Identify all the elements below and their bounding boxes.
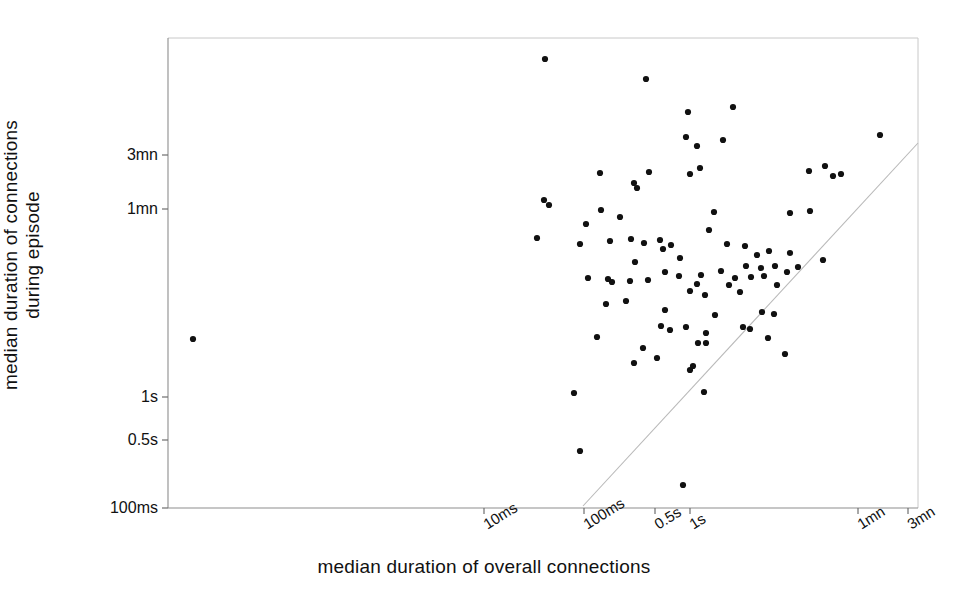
data-point	[617, 214, 623, 220]
data-point	[597, 170, 603, 176]
plot-frame	[168, 38, 918, 508]
data-point	[687, 288, 693, 294]
data-point	[730, 104, 736, 110]
data-point	[772, 263, 778, 269]
data-point	[662, 307, 668, 313]
data-point	[820, 257, 826, 263]
x-axis-title: median duration of overall connections	[0, 556, 968, 578]
y-tick-label: 0.5s	[60, 431, 158, 449]
data-point	[583, 221, 589, 227]
data-point	[687, 367, 693, 373]
data-point	[732, 275, 738, 281]
data-point	[628, 236, 634, 242]
y-tick-label: 100ms	[60, 499, 158, 517]
data-point	[748, 274, 754, 280]
data-point	[697, 165, 703, 171]
data-point	[740, 324, 746, 330]
data-point	[546, 202, 552, 208]
data-point	[680, 482, 686, 488]
data-point	[657, 237, 663, 243]
data-point	[667, 327, 673, 333]
data-point	[603, 301, 609, 307]
data-point	[687, 171, 693, 177]
data-point	[660, 246, 666, 252]
y-axis-title-line-1: median duration of connections	[0, 0, 22, 510]
data-point	[641, 240, 647, 246]
data-point	[594, 334, 600, 340]
data-point	[743, 263, 749, 269]
data-point	[784, 269, 790, 275]
data-point	[534, 235, 540, 241]
data-point	[577, 241, 583, 247]
data-point	[787, 210, 793, 216]
data-point	[623, 298, 629, 304]
data-point	[190, 336, 196, 342]
data-point	[631, 360, 637, 366]
data-point	[754, 252, 760, 258]
data-point	[662, 269, 668, 275]
data-point	[683, 134, 689, 140]
data-point	[822, 163, 828, 169]
data-point	[571, 390, 577, 396]
y-axis-title-line-2: during episode	[22, 0, 44, 510]
y-tick-label: 1s	[60, 388, 158, 406]
data-point	[542, 56, 548, 62]
data-point	[585, 275, 591, 281]
axis-ticks	[162, 155, 908, 514]
data-point	[694, 281, 700, 287]
data-point	[627, 278, 633, 284]
data-point	[703, 340, 709, 346]
data-point	[598, 207, 604, 213]
data-point	[766, 248, 772, 254]
data-point	[683, 324, 689, 330]
data-point	[737, 289, 743, 295]
data-point	[718, 268, 724, 274]
data-point	[724, 241, 730, 247]
data-point	[645, 277, 651, 283]
data-point	[726, 282, 732, 288]
y-tick-label: 1mn	[60, 200, 158, 218]
data-point	[720, 137, 726, 143]
data-point	[774, 282, 780, 288]
data-point	[758, 265, 764, 271]
data-point	[646, 169, 652, 175]
data-point	[830, 173, 836, 179]
data-point	[668, 242, 674, 248]
data-point	[759, 309, 765, 315]
data-point	[695, 340, 701, 346]
data-point	[685, 109, 691, 115]
data-point	[658, 323, 664, 329]
reference-line	[583, 143, 918, 506]
data-point	[634, 185, 640, 191]
scatter-plot-figure: median duration of connections during ep…	[0, 0, 968, 601]
data-point	[761, 273, 767, 279]
data-point	[605, 276, 611, 282]
data-point	[711, 209, 717, 215]
data-point	[807, 208, 813, 214]
data-point-group	[190, 56, 883, 488]
data-point	[806, 168, 812, 174]
data-point	[765, 335, 771, 341]
data-point	[702, 292, 708, 298]
data-point	[787, 250, 793, 256]
data-point	[838, 171, 844, 177]
data-point	[676, 273, 682, 279]
data-point	[694, 143, 700, 149]
data-point	[747, 326, 753, 332]
data-point	[698, 272, 704, 278]
data-point	[654, 355, 660, 361]
data-point	[712, 312, 718, 318]
data-point	[607, 238, 613, 244]
data-point	[632, 259, 638, 265]
data-point	[701, 389, 707, 395]
data-point	[742, 243, 748, 249]
data-point	[877, 132, 883, 138]
y-axis-title: median duration of connections during ep…	[0, 0, 40, 510]
data-point	[782, 351, 788, 357]
y-tick-label: 3mn	[60, 146, 158, 164]
data-point	[703, 330, 709, 336]
data-point	[771, 311, 777, 317]
data-point	[795, 264, 801, 270]
data-point	[643, 76, 649, 82]
data-point	[706, 227, 712, 233]
